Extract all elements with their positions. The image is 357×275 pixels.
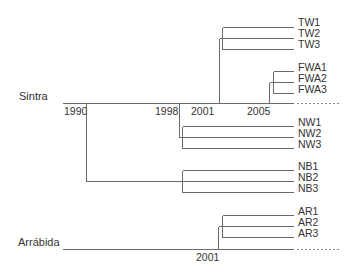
leaf-label-nw3: NW3 <box>298 138 321 150</box>
year-label-arrabida-2001: 2001 <box>196 251 220 263</box>
lineage-tree-diagram: Sintra 1990 1998 2001 2005 TW1 TW2 TW3 F… <box>0 0 357 275</box>
year-label-1998: 1998 <box>155 105 179 117</box>
leaf-label-ar3: AR3 <box>298 227 319 239</box>
year-label-2005: 2005 <box>247 105 271 117</box>
site-label-sintra: Sintra <box>19 90 49 102</box>
clade-fwa: FWA1 FWA2 FWA3 <box>270 61 327 104</box>
leaf-label-tw3: TW3 <box>298 38 320 50</box>
site-label-arrabida: Arrábida <box>18 236 60 248</box>
year-label-1990: 1990 <box>64 105 88 117</box>
leaf-label-fwa3: FWA3 <box>298 83 327 95</box>
year-label-2001: 2001 <box>191 105 215 117</box>
leaf-label-nb3: NB3 <box>298 182 319 194</box>
clade-ar: AR1 AR2 AR3 <box>219 205 319 250</box>
